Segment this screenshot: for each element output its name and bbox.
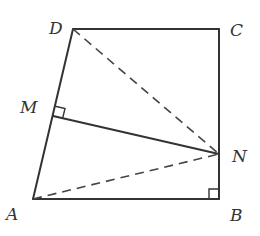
- label-b: B: [229, 205, 243, 225]
- label-a: A: [4, 204, 18, 224]
- label-c: C: [230, 20, 243, 40]
- segment-dn-dashed: [73, 29, 219, 154]
- segment-da: [33, 29, 73, 199]
- label-n: N: [231, 146, 248, 166]
- right-angle-mark-b: [209, 189, 219, 199]
- label-d: D: [48, 18, 63, 38]
- segment-an-dashed: [33, 154, 219, 199]
- segment-mn: [53, 116, 219, 154]
- label-m: M: [19, 97, 38, 117]
- geometry-diagram: D C M N A B: [0, 0, 260, 236]
